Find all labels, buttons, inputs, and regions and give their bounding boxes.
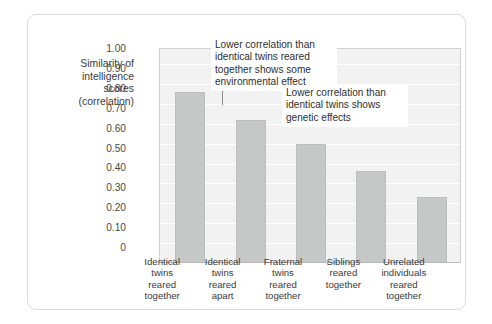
bar xyxy=(356,171,386,263)
x-axis-category-label: Siblings reared together xyxy=(313,256,373,290)
bar xyxy=(175,92,205,263)
y-axis-tick-label: 0.70 xyxy=(80,104,126,114)
x-axis-category-label: Identical twins reared apart xyxy=(192,256,252,302)
y-axis-tick-label: 0.30 xyxy=(80,183,126,193)
x-axis-category-label: Fraternal twins reared together xyxy=(253,256,313,302)
chart-card: Similarity of intelligence scores (corre… xyxy=(27,14,466,310)
annotation-callout: Lower correlation than identical twins s… xyxy=(282,85,408,127)
figure-container: Similarity of intelligence scores (corre… xyxy=(0,0,492,324)
y-axis-tick-label: 1.00 xyxy=(80,44,126,54)
annotation-callout: Lower correlation than identical twins r… xyxy=(211,37,337,91)
y-axis-tick-label: 0.40 xyxy=(80,163,126,173)
x-axis-category-label: Unrelated individuals reared together xyxy=(374,256,434,302)
x-axis-category-label: Identical twins reared together xyxy=(132,256,192,302)
bar xyxy=(417,197,447,263)
bar xyxy=(296,144,326,263)
y-axis-tick-label: 0.10 xyxy=(80,223,126,233)
y-axis-tick-label: 0.90 xyxy=(80,64,126,74)
y-axis-tick-label: 0.20 xyxy=(80,203,126,213)
y-axis-tick-label: 0.60 xyxy=(80,124,126,134)
y-axis-tick-label: 0.80 xyxy=(80,84,126,94)
y-axis-tick-label: 0.50 xyxy=(80,144,126,154)
y-axis-tick-label: 0 xyxy=(80,243,126,253)
bar xyxy=(236,120,266,263)
